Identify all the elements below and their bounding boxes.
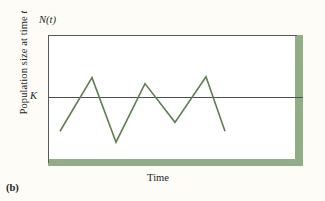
plot-background <box>48 35 303 166</box>
figure-root: Population size at time t N(t) K Time (b <box>0 0 325 201</box>
plot-area <box>48 35 303 166</box>
n-of-t-label-paren-close: ) <box>52 14 56 25</box>
y-axis-label-variable: t <box>18 11 29 14</box>
x-axis-label: Time <box>48 172 268 183</box>
n-of-t-label-n: N <box>39 14 46 25</box>
n-of-t-axis-label: N(t) <box>39 14 56 25</box>
plot-svg <box>48 35 303 166</box>
y-axis-label-text: Population size at time <box>18 14 29 115</box>
y-axis-label: Population size at time t <box>18 0 29 133</box>
panel-letter: (b) <box>6 182 19 193</box>
right-accent-bar <box>295 35 303 166</box>
bottom-accent-bar <box>48 159 303 166</box>
carrying-capacity-label: K <box>30 90 37 101</box>
